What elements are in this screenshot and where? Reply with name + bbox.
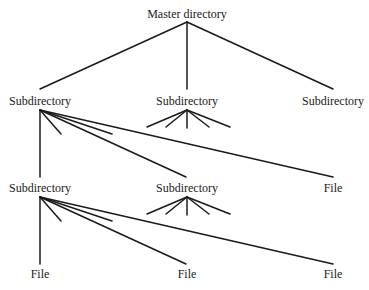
subdirectory-label-l2-middle: Subdirectory: [156, 181, 218, 195]
subdirectory-label-l2-left: Subdirectory: [9, 181, 71, 195]
file-label-l3-middle: File: [178, 267, 197, 281]
edge-root-to-left-subdirectory: [40, 22, 187, 89]
stub-branch: [187, 197, 230, 214]
stub-branch: [166, 110, 187, 127]
stub-branch: [187, 197, 209, 214]
subdirectory-label-l1-right: Subdirectory: [302, 94, 364, 108]
edges-level1-middle-fan: [147, 110, 230, 128]
directory-tree-diagram: Master directory Subdirectory Subdirecto…: [0, 0, 369, 290]
stub-branch: [187, 110, 230, 127]
stub-branch: [147, 110, 187, 127]
subdirectory-label-l1-middle: Subdirectory: [156, 94, 218, 108]
file-label-l3-right: File: [324, 267, 343, 281]
stub-branch: [187, 110, 209, 127]
file-label-l3-left: File: [31, 267, 50, 281]
master-directory-label: Master directory: [147, 7, 227, 21]
stub-branch: [147, 197, 187, 214]
subdirectory-label-l1-left: Subdirectory: [9, 94, 71, 108]
file-label-l2-right: File: [324, 181, 343, 195]
edges-level2-middle-fan: [147, 197, 230, 215]
edges-root: [40, 22, 333, 89]
stub-branch: [166, 197, 187, 214]
edge-root-to-right-subdirectory: [187, 22, 333, 89]
